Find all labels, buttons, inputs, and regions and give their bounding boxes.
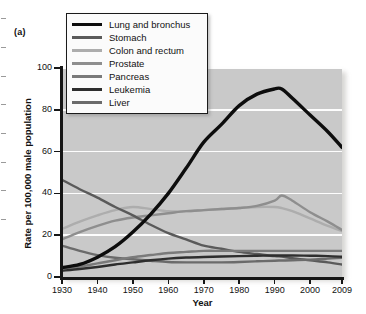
x-tick-label: 1990: [255, 285, 295, 295]
series-line-lung-and-bronchus: [62, 88, 342, 268]
legend-label: Liver: [109, 96, 130, 109]
legend-swatch-pancreas: [72, 75, 102, 77]
x-tick-label: 1960: [148, 285, 188, 295]
legend-label: Colon and rectum: [109, 44, 184, 57]
y-tick-mark: [54, 109, 60, 111]
legend-swatch-leukemia: [72, 88, 102, 90]
x-tick-label: 1970: [184, 285, 224, 295]
x-tick-mark: [132, 279, 134, 284]
y-tick-mark: [54, 276, 60, 278]
legend-label: Pancreas: [109, 70, 149, 83]
x-tick-mark: [203, 279, 205, 284]
x-tick-label: 2009: [322, 285, 362, 295]
legend-item[interactable]: Leukemia: [72, 83, 202, 96]
y-tick-mark: [54, 151, 60, 153]
x-tick-label: 1980: [219, 285, 259, 295]
legend-label: Leukemia: [109, 83, 150, 96]
x-axis-title: Year: [62, 297, 343, 308]
x-tick-label: 1950: [113, 285, 153, 295]
chart-legend: Lung and bronchus Stomach Colon and rect…: [66, 13, 208, 114]
y-tick-label: 100: [24, 62, 52, 72]
y-tick-mark: [54, 234, 60, 236]
legend-item[interactable]: Pancreas: [72, 70, 202, 83]
legend-swatch-lung-and-bronchus: [72, 23, 102, 26]
x-tick-mark: [274, 279, 276, 284]
y-tick-label: 60: [24, 146, 52, 156]
y-tick-mark: [54, 193, 60, 195]
x-tick-mark: [168, 279, 170, 284]
panel-label: (a): [14, 27, 26, 37]
legend-item[interactable]: Prostate: [72, 57, 202, 70]
x-tick-mark: [341, 279, 343, 284]
legend-swatch-liver: [72, 101, 102, 103]
legend-item[interactable]: Lung and bronchus: [72, 18, 202, 31]
legend-label: Prostate: [109, 57, 144, 70]
legend-item[interactable]: Colon and rectum: [72, 44, 202, 57]
x-tick-label: 1930: [42, 285, 82, 295]
x-tick-mark: [309, 279, 311, 284]
x-tick-mark: [97, 279, 99, 284]
legend-swatch-stomach: [72, 36, 102, 38]
y-axis-line: [60, 66, 63, 279]
legend-swatch-colon-and-rectum: [72, 49, 102, 51]
y-tick-label: 20: [24, 229, 52, 239]
x-tick-mark: [61, 279, 63, 284]
y-tick-mark: [54, 67, 60, 69]
legend-label: Stomach: [109, 31, 147, 44]
legend-label: Lung and bronchus: [109, 18, 190, 31]
x-tick-mark: [238, 279, 240, 284]
x-tick-label: 1940: [77, 285, 117, 295]
legend-item[interactable]: Liver: [72, 96, 202, 109]
legend-swatch-prostate: [72, 62, 102, 64]
y-tick-label: 80: [24, 104, 52, 114]
x-axis-line: [60, 277, 344, 280]
y-tick-label: 40: [24, 187, 52, 197]
page-edge-artifacts: [0, 0, 8, 314]
y-tick-label: 0: [24, 271, 52, 281]
legend-item[interactable]: Stomach: [72, 31, 202, 44]
